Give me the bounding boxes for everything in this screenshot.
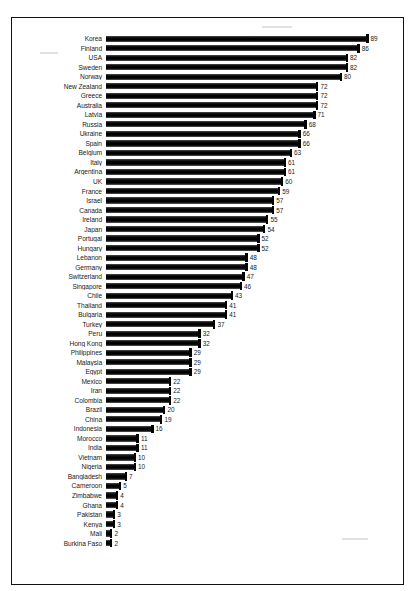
bar-track: 48 [106,262,403,272]
bar [106,502,118,508]
bar-track: 57 [106,196,403,206]
bar-track: 29 [106,358,403,368]
category-label: Bangladesh [12,473,106,480]
bar-track: 54 [106,224,403,234]
bar-row: Thailand41 [12,300,403,310]
value-label: 46 [244,283,251,290]
bar-track: 66 [106,129,403,139]
bar [106,407,165,413]
bar-chart-plot-area: Korea89Finland86USA82Sweden82Norway80New… [12,34,403,578]
bar-track: 41 [106,310,403,320]
category-label: Burkina Faso [12,540,106,547]
category-label: Korea [12,35,106,42]
category-label: Finland [12,45,106,52]
category-label: Ukraine [12,130,106,137]
category-label: Ireland [12,216,106,223]
category-label: Ghana [12,502,106,509]
value-label: 82 [350,54,357,61]
category-label: Israel [12,197,106,204]
value-label: 22 [173,387,180,394]
value-label: 3 [117,521,121,528]
bar-track: 43 [106,291,403,301]
bar [106,178,283,184]
value-label: 2 [114,540,118,547]
value-label: 5 [123,482,127,489]
bar-track: 52 [106,234,403,244]
bar-row: Peru32 [12,329,403,339]
value-label: 59 [282,188,289,195]
bar-row: Vietnam10 [12,453,403,463]
category-label: Mexico [12,378,106,385]
bar [106,245,259,251]
category-label: Hungary [12,245,106,252]
category-label: Canada [12,207,106,214]
bar-row: Argentina61 [12,167,403,177]
category-label: Turkey [12,321,106,328]
value-label: 20 [167,406,174,413]
bar-row: Switzerland47 [12,272,403,282]
bar-row: China19 [12,415,403,425]
value-label: 60 [285,178,292,185]
bar-row: Lebanon48 [12,253,403,263]
category-label: Colombia [12,397,106,404]
value-label: 29 [194,368,201,375]
bar [106,359,191,365]
bar [106,302,227,308]
bar [106,473,127,479]
bar-track: 59 [106,186,403,196]
bar-row: Spain66 [12,139,403,149]
category-label: Russia [12,121,106,128]
category-label: Norway [12,73,106,80]
bar [106,369,191,375]
bar-track: 68 [106,120,403,130]
value-label: 72 [320,83,327,90]
value-label: 3 [117,511,121,518]
bar-track: 32 [106,339,403,349]
category-label: Sweden [12,64,106,71]
bar [106,274,244,280]
bar-track: 52 [106,243,403,253]
bar-track: 47 [106,272,403,282]
value-label: 57 [276,207,283,214]
bar-row: Russia68 [12,120,403,130]
bar-row: Indonesia16 [12,424,403,434]
bar-track: 3 [106,519,403,529]
bar [106,45,359,51]
bar-row: Nigeria10 [12,462,403,472]
bar-track: 72 [106,82,403,92]
category-label: Cameroon [12,482,106,489]
value-label: 52 [262,245,269,252]
value-label: 61 [288,159,295,166]
bar [106,445,138,451]
value-label: 16 [156,425,163,432]
bar-track: 41 [106,300,403,310]
value-label: 7 [129,473,133,480]
bar [106,255,247,261]
value-label: 48 [250,264,257,271]
bar [106,102,318,108]
value-label: 61 [288,168,295,175]
category-label: Belgium [12,149,106,156]
bar-row: Kenya3 [12,519,403,529]
category-label: Chile [12,292,106,299]
category-label: Latvia [12,111,106,118]
bar [106,464,135,470]
bar-row: Mexico22 [12,377,403,387]
category-label: Brazil [12,406,106,413]
bar [106,340,200,346]
bar [106,454,135,460]
value-label: 22 [173,397,180,404]
bar-row: France59 [12,186,403,196]
value-label: 10 [138,454,145,461]
bar-track: 4 [106,491,403,501]
bar-track: 7 [106,472,403,482]
bar-track: 66 [106,139,403,149]
value-label: 10 [138,463,145,470]
bar-row: Hungary52 [12,243,403,253]
bar [106,188,280,194]
bar-track: 22 [106,386,403,396]
bar-track: 61 [106,158,403,168]
bar-row: India11 [12,443,403,453]
bar [106,416,162,422]
bar-track: 16 [106,424,403,434]
